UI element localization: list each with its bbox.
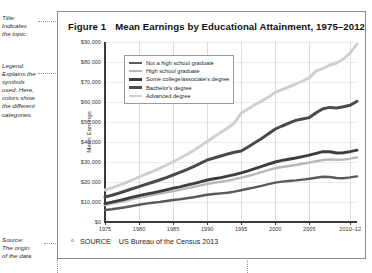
annotation-legend-line-1: Explains the xyxy=(2,70,50,78)
y-axis-label: Mean Earnings xyxy=(85,111,92,153)
source-line: SOURCEUS Bureau of the Census 2013 xyxy=(80,237,218,246)
x-tick-mark xyxy=(173,222,174,225)
legend-swatch-icon xyxy=(129,95,142,98)
series-line xyxy=(105,176,357,210)
x-tick-mark xyxy=(241,222,242,225)
y-tick-label: $70,000 xyxy=(81,79,101,85)
annotation-source-line-0: Source: xyxy=(2,236,50,244)
y-tick-label: $80,000 xyxy=(81,59,101,65)
x-tick-label: 1995 xyxy=(235,226,247,232)
annotation-title-line-2: the topic. xyxy=(2,30,50,38)
x-tick-label: 2000 xyxy=(269,226,281,232)
x-tick-label: 1990 xyxy=(201,226,213,232)
x-tick-mark xyxy=(350,222,351,225)
source-keyword: SOURCE xyxy=(80,237,111,246)
legend-item[interactable]: Advanced degree xyxy=(129,92,229,100)
annotation-legend-line-0: Legend: xyxy=(2,62,50,70)
figure-number: Figure 1 xyxy=(68,21,106,32)
y-tick-label: $0 xyxy=(95,219,101,225)
legend-swatch-icon xyxy=(129,70,142,72)
annotation-title-line-1: Indicates xyxy=(2,22,50,30)
x-tick-mark xyxy=(139,222,140,225)
y-tick-label: $10,000 xyxy=(81,199,101,205)
chart-legend: Not a high school graduateHigh school gr… xyxy=(124,55,234,104)
annotation-legend-line-6: categories. xyxy=(2,111,50,119)
x-tick-mark xyxy=(105,222,106,225)
figure-title: Figure 1Mean Earnings by Educational Att… xyxy=(68,21,365,32)
annotation-legend-line-5: the different xyxy=(2,102,50,110)
y-tick-label: $20,000 xyxy=(81,179,101,185)
legend-swatch-icon xyxy=(129,78,142,81)
annotation-legend-line-3: used. Here, xyxy=(2,86,50,94)
figure-title-text: Mean Earnings by Educational Attainment,… xyxy=(115,21,365,32)
annotation-source-note: Source: The origin of the data. xyxy=(2,236,50,260)
annotation-legend-note: Legend: Explains the symbols used. Here,… xyxy=(2,62,50,119)
legend-item[interactable]: Some college/associate's degree xyxy=(129,75,229,83)
annotation-title-note: Title: Indicates the topic. xyxy=(2,14,50,38)
y-tick-label: $30,000 xyxy=(81,159,101,165)
legend-swatch-icon xyxy=(129,62,142,64)
legend-item[interactable]: Bachelor's degree xyxy=(129,84,229,92)
annotation-legend-line-2: symbols xyxy=(2,78,50,86)
y-tick-label: $60,000 xyxy=(81,99,101,105)
series-line xyxy=(105,101,357,197)
x-tick-label: 1985 xyxy=(167,226,179,232)
series-line xyxy=(105,157,357,205)
legend-item-label: Bachelor's degree xyxy=(146,85,192,91)
x-tick-mark xyxy=(275,222,276,225)
y-tick-label: $90,000 xyxy=(81,39,101,45)
legend-item-label: Some college/associate's degree xyxy=(146,76,229,82)
legend-item[interactable]: Not a high school graduate xyxy=(129,59,229,67)
guide-vertical-left xyxy=(57,259,58,273)
x-tick-mark xyxy=(207,222,208,225)
legend-item-label: Not a high school graduate xyxy=(146,60,214,66)
source-text: US Bureau of the Census 2013 xyxy=(119,237,219,246)
legend-swatch-icon xyxy=(129,86,142,89)
figure-page: Title: Indicates the topic. Legend: Expl… xyxy=(0,0,372,273)
x-tick-label: 1980 xyxy=(133,226,145,232)
annotation-legend-line-4: colors show xyxy=(2,94,50,102)
x-tick-mark xyxy=(309,222,310,225)
legend-item-label: High school graduate xyxy=(146,68,200,74)
annotation-source-line-2: of the data. xyxy=(2,252,50,260)
annotation-source-line-1: The origin xyxy=(2,244,50,252)
leader-dot-source-inner xyxy=(71,239,74,242)
legend-item-label: Advanced degree xyxy=(146,93,191,99)
x-tick-label: 2010–12 xyxy=(339,226,361,232)
figure-frame: Figure 1Mean Earnings by Educational Att… xyxy=(57,11,366,259)
x-tick-label: 2005 xyxy=(303,226,315,232)
x-tick-label: 1975 xyxy=(99,226,111,232)
legend-item[interactable]: High school graduate xyxy=(129,67,229,75)
